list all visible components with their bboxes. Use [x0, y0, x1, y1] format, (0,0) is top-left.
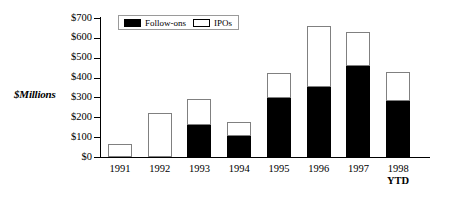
chart-legend: Follow-ons IPOs	[118, 15, 239, 30]
bar-1998-YTD	[386, 72, 410, 157]
bar-1997	[346, 32, 370, 157]
x-axis-label-1998-YTD: 1998YTD	[373, 163, 423, 187]
plot-area	[100, 18, 418, 157]
stacked-bar-chart: $Millions $0$100$200$300$400$500$600$700…	[0, 0, 470, 207]
bar-1993	[187, 99, 211, 157]
bar-1991	[108, 144, 132, 157]
bar-segment-ipos	[307, 26, 331, 86]
bar-1994	[227, 122, 251, 157]
bar-segment-ipos	[346, 32, 370, 66]
bar-segment-ipos	[108, 144, 132, 157]
y-axis-tick-label: $600	[32, 32, 92, 42]
bar-segment-follow-ons	[227, 136, 251, 157]
legend-item-follow-ons: Follow-ons	[124, 18, 186, 28]
y-axis-tick-label: $100	[32, 132, 92, 142]
legend-swatch-follow-ons-icon	[124, 19, 141, 27]
y-axis-tick-label: $400	[32, 72, 92, 82]
x-axis-line	[100, 157, 430, 158]
y-axis-tick-label: $500	[32, 52, 92, 62]
legend-swatch-ipos-icon	[193, 19, 210, 27]
bar-segment-follow-ons	[187, 125, 211, 157]
y-axis-tick	[94, 157, 100, 158]
legend-label-ipos: IPOs	[214, 18, 232, 28]
bar-1992	[148, 113, 172, 157]
bar-segment-follow-ons	[267, 98, 291, 157]
y-axis-tick-label: $700	[32, 13, 92, 23]
y-axis-tick-label: $200	[32, 112, 92, 122]
bar-segment-follow-ons	[386, 101, 410, 157]
bar-segment-ipos	[267, 73, 291, 98]
legend-item-ipos: IPOs	[193, 18, 232, 28]
bar-1995	[267, 73, 291, 157]
bar-1996	[307, 26, 331, 157]
bar-segment-follow-ons	[346, 66, 370, 157]
y-axis-tick-label: $0	[32, 152, 92, 162]
bar-segment-ipos	[187, 99, 211, 125]
y-axis-tick-label: $300	[32, 92, 92, 102]
bar-segment-ipos	[227, 122, 251, 136]
bar-segment-ipos	[386, 72, 410, 100]
legend-label-follow-ons: Follow-ons	[145, 18, 186, 28]
bar-segment-ipos	[148, 113, 172, 157]
x-axis-label-sub: YTD	[373, 175, 423, 187]
bar-segment-follow-ons	[307, 87, 331, 157]
